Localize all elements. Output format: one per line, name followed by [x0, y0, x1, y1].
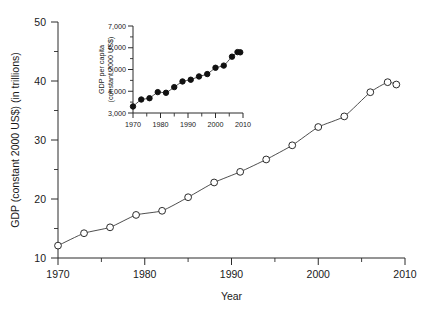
- data-point: [221, 63, 226, 68]
- data-point: [133, 212, 140, 219]
- data-point: [205, 71, 210, 76]
- data-point: [315, 124, 322, 131]
- main-y-axis-title: GDP (constant 2000 US$) (in trillions): [9, 52, 21, 227]
- main-ytick-label-30: 30: [34, 134, 46, 146]
- main-series-line: [58, 82, 396, 246]
- main-chart: 50 40 30 20 10 1970 1980 1: [9, 16, 417, 302]
- inset-y-axis-title-line1: GDP per capita: [97, 45, 106, 94]
- inset-xtick-label-2000: 2000: [208, 120, 224, 129]
- main-ytick-label-40: 40: [34, 75, 46, 87]
- data-point: [163, 90, 168, 95]
- main-xtick-label-2000: 2000: [307, 268, 331, 280]
- data-point: [213, 65, 218, 70]
- data-point: [180, 79, 185, 84]
- inset-xtick-label-2010: 2010: [235, 120, 251, 129]
- figure-container: 50 40 30 20 10 1970 1980 1: [0, 0, 430, 310]
- data-point: [188, 77, 193, 82]
- inset-series-markers: [130, 49, 243, 109]
- inset-ytick-label-7000: 7,000: [108, 22, 126, 31]
- main-ytick-label-10: 10: [34, 252, 46, 264]
- main-y-major-ticks: [51, 22, 58, 258]
- main-x-axis-title: Year: [221, 290, 243, 302]
- data-point: [155, 89, 160, 94]
- data-point: [237, 168, 244, 175]
- data-point: [139, 97, 144, 102]
- data-point: [147, 96, 152, 101]
- data-point: [263, 156, 270, 163]
- data-point: [130, 104, 135, 109]
- data-point: [107, 224, 114, 231]
- inset-xtick-label-1970: 1970: [125, 120, 141, 129]
- data-point: [55, 242, 62, 249]
- main-x-major-ticks: [58, 258, 405, 265]
- data-point: [229, 54, 234, 59]
- inset-y-major-ticks: [128, 26, 133, 113]
- data-point: [172, 84, 177, 89]
- inset-x-major-ticks: [133, 113, 243, 118]
- data-point: [185, 194, 192, 201]
- inset-chart: 7,000 6,000 5,000 4,000 3,000 1970 1980: [97, 22, 251, 130]
- data-point: [341, 113, 348, 120]
- main-xtick-label-1970: 1970: [46, 268, 70, 280]
- inset-ytick-label-3000: 3,000: [108, 109, 126, 118]
- data-point: [289, 142, 296, 149]
- inset-xtick-label-1980: 1980: [153, 120, 169, 129]
- main-xtick-label-2010: 2010: [393, 268, 417, 280]
- data-point: [393, 81, 400, 88]
- data-point: [81, 230, 88, 237]
- data-point: [367, 89, 374, 96]
- main-xtick-label-1990: 1990: [220, 268, 244, 280]
- inset-y-axis-title-line2: (constant 2000 US$): [106, 37, 115, 103]
- main-xtick-label-1980: 1980: [133, 268, 157, 280]
- data-point: [238, 50, 243, 55]
- main-ytick-label-50: 50: [34, 16, 46, 28]
- data-point: [159, 207, 166, 214]
- chart-svg: 50 40 30 20 10 1970 1980 1: [0, 0, 430, 310]
- data-point: [196, 74, 201, 79]
- main-series-markers: [55, 79, 400, 249]
- data-point: [211, 179, 218, 186]
- inset-xtick-label-1990: 1990: [180, 120, 196, 129]
- main-ytick-label-20: 20: [34, 193, 46, 205]
- data-point: [384, 79, 391, 86]
